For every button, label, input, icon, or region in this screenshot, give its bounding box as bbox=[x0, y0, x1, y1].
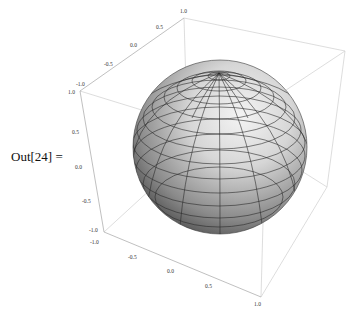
svg-text:1.0: 1.0 bbox=[180, 8, 187, 14]
svg-text:0.0: 0.0 bbox=[167, 268, 174, 274]
svg-text:-1.0: -1.0 bbox=[76, 81, 85, 87]
svg-text:1.0: 1.0 bbox=[254, 301, 261, 307]
svg-text:-1.0: -1.0 bbox=[89, 227, 98, 233]
svg-text:0.5: 0.5 bbox=[205, 283, 212, 289]
sphere-surface bbox=[133, 60, 312, 234]
svg-text:-0.5: -0.5 bbox=[128, 254, 137, 260]
svg-text:-1.0: -1.0 bbox=[90, 239, 99, 245]
svg-text:-0.5: -0.5 bbox=[82, 198, 91, 204]
axis-bottom: -1.0 -0.5 0.0 0.5 1.0 bbox=[90, 239, 261, 307]
svg-text:0.0: 0.0 bbox=[130, 42, 137, 48]
svg-text:0.5: 0.5 bbox=[156, 24, 163, 30]
svg-text:0.0: 0.0 bbox=[75, 164, 82, 170]
svg-text:1.0: 1.0 bbox=[68, 89, 75, 95]
sphere-plot-3d[interactable]: -1.0 -0.5 0.0 0.5 1.0 1.0 0.5 0.0 -0.5 -… bbox=[0, 0, 351, 313]
svg-text:-0.5: -0.5 bbox=[104, 61, 113, 67]
svg-text:0.5: 0.5 bbox=[72, 129, 79, 135]
